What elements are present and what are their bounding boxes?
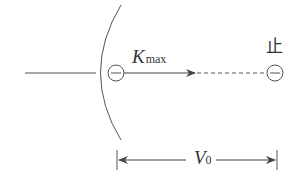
kmax-label: Kmax — [132, 47, 166, 66]
kmax-symbol: K — [132, 46, 145, 67]
electron-end-icon — [267, 65, 283, 81]
electron-start-icon — [108, 65, 124, 81]
v0-subscript: 0 — [206, 153, 212, 167]
kmax-subscript: max — [146, 52, 167, 66]
stop-label: 止 — [266, 38, 283, 55]
v0-label: V0 — [190, 148, 216, 167]
diagram-canvas — [0, 0, 307, 182]
v0-symbol: V — [194, 147, 206, 168]
